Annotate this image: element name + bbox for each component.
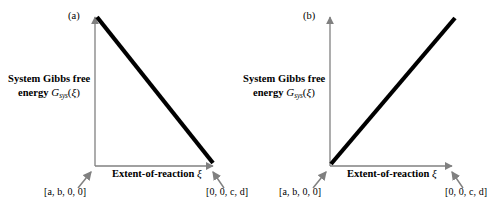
y-axis-subscript-a: sys — [59, 92, 67, 100]
data-line-b — [331, 18, 455, 164]
y-axis-title-a: System Gibbs free energy Gsys(ξ) — [8, 73, 90, 101]
state-label-right-b: [0, 0, c, d] — [445, 186, 487, 198]
y-axis-subscript-b: sys — [294, 92, 302, 100]
panel-letter-a: (a) — [68, 10, 80, 22]
y-axis-title-line1-a: System Gibbs free — [8, 73, 90, 84]
y-axis-paren-close-b: ) — [311, 86, 315, 98]
y-axis-title-line2-a: energy Gsys(ξ) — [8, 86, 90, 101]
x-axis-title-b: Extent-of-reaction ξ — [347, 167, 437, 180]
x-axis-title-a: Extent-of-reaction ξ — [112, 167, 202, 180]
y-axis-title-energy-b: energy — [253, 87, 284, 98]
x-axis-symbol-b: ξ — [432, 167, 437, 179]
x-axis-title-text-a: Extent-of-reaction — [112, 168, 194, 179]
y-axis-title-b: System Gibbs free energy Gsys(ξ) — [243, 73, 325, 101]
panel-a: (a) System Gibbs free energy Gsys(ξ) Ext… — [0, 0, 251, 206]
data-line-a — [97, 17, 213, 163]
y-axis-paren-close-a: ) — [76, 86, 80, 98]
panel-b: (b) System Gibbs free energy Gsys(ξ) Ext… — [251, 0, 502, 206]
x-axis-symbol-a: ξ — [197, 167, 202, 179]
state-label-left-b: [a, b, 0, 0] — [279, 186, 321, 198]
y-axis-title-line2-b: energy Gsys(ξ) — [243, 86, 325, 101]
x-axis-title-text-b: Extent-of-reaction — [347, 168, 429, 179]
figure-canvas: (a) System Gibbs free energy Gsys(ξ) Ext… — [0, 0, 502, 206]
panel-letter-b: (b) — [303, 10, 315, 22]
state-label-right-a: [0, 0, c, d] — [206, 186, 248, 198]
y-axis-title-line1-b: System Gibbs free — [243, 73, 325, 84]
state-label-left-a: [a, b, 0, 0] — [44, 186, 86, 198]
y-axis-title-energy-a: energy — [18, 87, 49, 98]
